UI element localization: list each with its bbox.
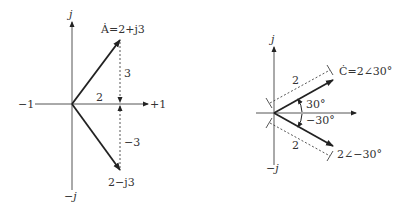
angle-pos-label: 30° xyxy=(306,98,326,111)
magnitude-upper-tick-a xyxy=(266,98,272,108)
magnitude-upper-tick-b xyxy=(327,65,333,75)
phasor-diagrams: j −j −1 +1 Ȧ=2+j3 2−j3 2 3 −3 j −j Ċ=2∠3… xyxy=(0,0,403,208)
imag-neg-label: −3 xyxy=(124,136,140,149)
phasor-d-label: 2∠−30° xyxy=(337,148,382,161)
neg-imag-label-right: −j xyxy=(266,162,279,175)
pos-imag-label-right: j xyxy=(268,33,275,46)
real-component-label: 2 xyxy=(96,91,103,104)
magnitude-upper-label: 2 xyxy=(292,74,299,87)
magnitude-lower-tick-a xyxy=(266,118,272,128)
phasor-c-label: Ċ=2∠30° xyxy=(339,64,392,78)
magnitude-lower-tick-b xyxy=(327,151,333,161)
pos-imag-label: j xyxy=(66,8,73,21)
phasor-a-label: Ȧ=2+j3 xyxy=(100,22,145,36)
left-phasor-diagram: j −j −1 +1 Ȧ=2+j3 2−j3 2 3 −3 xyxy=(18,8,166,203)
imag-pos-label: 3 xyxy=(124,67,131,80)
pos-real-label: +1 xyxy=(150,98,166,111)
magnitude-lower-label: 2 xyxy=(292,139,299,152)
neg-real-label: −1 xyxy=(18,98,34,111)
angle-pos-arc xyxy=(298,99,302,112)
angle-neg-arc xyxy=(298,114,302,127)
angle-neg-label: −30° xyxy=(306,114,335,127)
phasor-b-label: 2−j3 xyxy=(108,176,135,189)
phasor-b xyxy=(72,104,120,170)
neg-imag-label: −j xyxy=(64,190,77,203)
right-phasor-diagram: j −j Ċ=2∠30° 2∠−30° 2 2 30° −30° xyxy=(256,33,392,175)
